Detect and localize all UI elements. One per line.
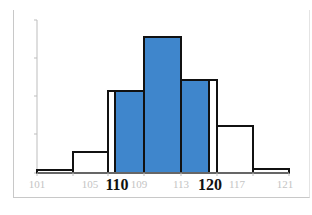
highlighted-bars	[115, 37, 209, 173]
x-label-101: 101	[29, 178, 46, 190]
bar-105	[73, 152, 108, 173]
histogram-chart: 101 105 109 113 117 121 110 120	[0, 0, 312, 215]
marker-label-110: 110	[105, 176, 128, 193]
x-label-105: 105	[82, 178, 99, 190]
x-label-117: 117	[229, 178, 246, 190]
x-label-109: 109	[131, 178, 148, 190]
bar-highlight-left	[115, 91, 144, 173]
bar-121	[253, 169, 289, 173]
bar-highlight-right	[181, 80, 209, 173]
bar-117	[217, 126, 253, 173]
x-label-113: 113	[173, 178, 190, 190]
marker-label-120: 120	[198, 176, 222, 193]
bar-highlight-center	[144, 37, 181, 173]
x-label-121: 121	[277, 178, 294, 190]
